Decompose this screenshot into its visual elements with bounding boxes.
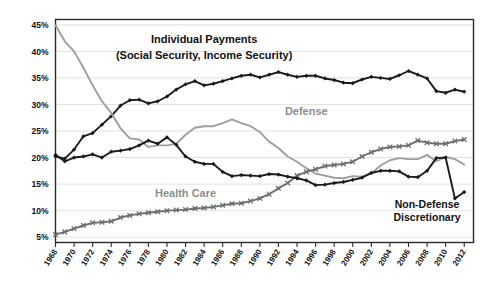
y-tick-label: 20% [31, 153, 48, 163]
y-tick-label: 25% [31, 126, 48, 136]
spending-share-line-chart: 45%40%35%30%25%20%15%10%5% 1968197019721… [0, 0, 499, 290]
series-annotation-label: Defense [285, 105, 328, 117]
y-axis-tick-labels: 45%40%35%30%25%20%15%10%5% [31, 20, 48, 242]
chart-container: 45%40%35%30%25%20%15%10%5% 1968197019721… [0, 0, 499, 290]
y-tick-label: 40% [31, 47, 48, 57]
y-tick-label: 15% [31, 179, 48, 189]
series-annotation-label: Discretionary [393, 211, 460, 223]
series-annotation-label: (Social Security, Income Security) [116, 49, 293, 61]
y-tick-label: 45% [31, 20, 48, 30]
y-tick-label: 5% [36, 232, 49, 242]
y-tick-label: 35% [31, 73, 48, 83]
series-annotation-label: Health Care [155, 187, 216, 199]
series-annotation-label: Individual Payments [151, 33, 257, 45]
y-tick-label: 10% [31, 206, 48, 216]
x-axis-tick-labels: 1968197019721974197619781980198219841986… [42, 247, 468, 267]
series-annotation-label: Non-Defense [395, 198, 460, 210]
y-tick-label: 30% [31, 100, 48, 110]
